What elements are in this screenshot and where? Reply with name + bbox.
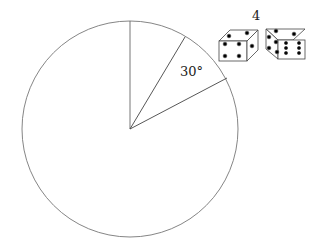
die-left-icon <box>219 30 258 61</box>
die-right-icon <box>266 29 305 59</box>
radius-line-3 <box>130 78 227 129</box>
angle-label: 30° <box>180 64 203 79</box>
radius-line-2 <box>130 37 185 129</box>
dice-number-label: 4 <box>252 8 260 23</box>
spinner-diagram <box>0 0 319 247</box>
